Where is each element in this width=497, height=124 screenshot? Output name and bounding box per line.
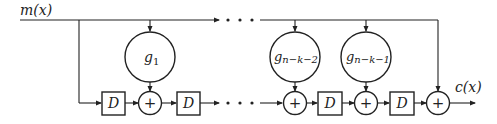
input-label: m(x) xyxy=(20,2,52,18)
svg-text:+: + xyxy=(144,94,157,112)
svg-text:D: D xyxy=(395,95,407,111)
ellipsis-dot xyxy=(226,101,229,104)
ellipsis-dot xyxy=(250,101,253,104)
svg-text:D: D xyxy=(182,95,194,111)
delay-box-3: D xyxy=(318,92,342,115)
adder-2: + xyxy=(284,92,307,115)
svg-text:+: + xyxy=(360,94,373,112)
coefficient-g-n-k-2: gn−k−2 xyxy=(270,32,320,82)
input-feed xyxy=(79,20,101,103)
svg-text:+: + xyxy=(289,94,302,112)
svg-text:D: D xyxy=(323,95,335,111)
encoder-diagram: m(x) D g1 + D xyxy=(0,0,497,124)
svg-text:D: D xyxy=(107,95,119,111)
output-label: c(x) xyxy=(455,79,482,95)
delay-box-4: D xyxy=(390,92,414,115)
delay-box-2: D xyxy=(177,92,200,115)
adder-1: + xyxy=(139,92,162,115)
coefficient-g-n-k-1: gn−k−1 xyxy=(341,32,391,82)
output-adder: + xyxy=(427,92,450,115)
ellipsis-dot xyxy=(250,18,253,21)
coefficient-g1: g1 xyxy=(125,32,175,82)
delay-box-1: D xyxy=(102,92,125,115)
svg-text:+: + xyxy=(432,94,445,112)
ellipsis-dot xyxy=(226,18,229,21)
ellipsis-dot xyxy=(238,18,241,21)
adder-3: + xyxy=(355,92,378,115)
ellipsis-dot xyxy=(238,101,241,104)
